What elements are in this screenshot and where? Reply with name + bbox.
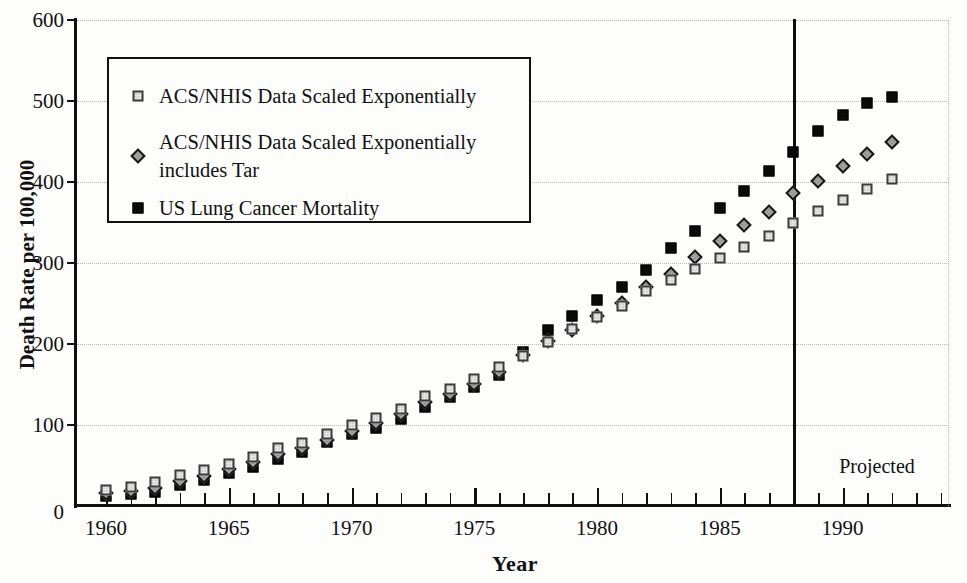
- data-point-acs-nhis-scaled-1973: [420, 390, 431, 401]
- lung-cancer-mortality-chart: 0100200300400500600196019651970197519801…: [0, 0, 967, 583]
- data-point-acs-nhis-scaled-1967: [272, 443, 283, 454]
- x-tick-label-1960: 1960: [71, 518, 141, 539]
- gridline-100: [77, 425, 949, 426]
- x-tick-1972: [401, 493, 403, 505]
- data-point-acs-nhis-scaled-1970: [346, 420, 357, 431]
- data-point-acs-nhis-scaled-1960: [101, 484, 112, 495]
- data-point-acs-nhis-scaled-1985: [714, 253, 725, 264]
- data-point-us-lung-cancer-mortality-1988: [788, 147, 799, 158]
- data-point-acs-nhis-scaled-tar-1985: [712, 233, 728, 249]
- x-tick-1973: [425, 493, 427, 505]
- data-point-acs-nhis-scaled-1968: [297, 437, 308, 448]
- data-point-acs-nhis-scaled-1965: [223, 458, 234, 469]
- data-point-acs-nhis-scaled-tar-1992: [884, 135, 900, 151]
- data-point-us-lung-cancer-mortality-1991: [862, 98, 873, 109]
- data-point-acs-nhis-scaled-1984: [690, 264, 701, 275]
- data-point-us-lung-cancer-mortality-1985: [714, 202, 725, 213]
- x-tick-1991: [867, 493, 869, 505]
- x-tick-1983: [671, 493, 673, 505]
- data-point-acs-nhis-scaled-1979: [567, 323, 578, 334]
- data-point-acs-nhis-scaled-tar-1986: [737, 217, 753, 233]
- data-point-acs-nhis-scaled-1961: [125, 482, 136, 493]
- y-tick: [67, 19, 75, 21]
- y-tick: [67, 262, 75, 264]
- data-point-acs-nhis-scaled-1978: [542, 337, 553, 348]
- x-tick-1989: [818, 493, 820, 505]
- data-point-us-lung-cancer-mortality-1982: [641, 265, 652, 276]
- data-point-acs-nhis-scaled-1975: [469, 373, 480, 384]
- data-point-acs-nhis-scaled-1980: [592, 312, 603, 323]
- data-point-acs-nhis-scaled-1989: [812, 206, 823, 217]
- legend-entry-us-mortality: US Lung Cancer Mortality: [109, 191, 529, 225]
- data-point-acs-nhis-scaled-1969: [321, 428, 332, 439]
- y-axis-title: Death Rate per 100,000: [15, 150, 40, 380]
- data-point-us-lung-cancer-mortality-1986: [739, 185, 750, 196]
- data-point-acs-nhis-scaled-1966: [248, 451, 259, 462]
- x-tick-1979: [572, 493, 574, 505]
- legend-label: ACS/NHIS Data Scaled Exponentially: [159, 82, 521, 110]
- x-tick-1974: [450, 493, 452, 505]
- gridline-600: [77, 20, 949, 21]
- legend-label: US Lung Cancer Mortality: [159, 194, 521, 222]
- projection-divider-line: [793, 19, 796, 507]
- x-tick-1976: [499, 493, 501, 505]
- x-tick-1992: [892, 493, 894, 505]
- data-point-acs-nhis-scaled-1992: [886, 173, 897, 184]
- data-point-acs-nhis-scaled-1972: [395, 403, 406, 414]
- x-tick-1971: [376, 493, 378, 505]
- x-tick-1994: [941, 493, 943, 505]
- x-tick-1978: [548, 493, 550, 505]
- x-tick-label-1985: 1985: [685, 518, 755, 539]
- y-tick-label-100: 100: [12, 415, 64, 436]
- data-point-acs-nhis-scaled-1986: [739, 241, 750, 252]
- data-point-acs-nhis-scaled-1963: [174, 470, 185, 481]
- x-tick-1970: [352, 488, 354, 505]
- legend-label: ACS/NHIS Data Scaled Exponentially inclu…: [159, 128, 521, 184]
- data-point-acs-nhis-scaled-1977: [518, 351, 529, 362]
- data-point-us-lung-cancer-mortality-1980: [592, 295, 603, 306]
- x-tick-1975: [474, 488, 476, 505]
- x-tick-label-1975: 1975: [439, 518, 509, 539]
- data-point-acs-nhis-scaled-tar-1991: [859, 146, 875, 162]
- data-point-us-lung-cancer-mortality-1989: [812, 125, 823, 136]
- data-point-acs-nhis-scaled-1991: [862, 184, 873, 195]
- x-tick-1966: [253, 493, 255, 505]
- legend-entry-acs-nhis-tar: ACS/NHIS Data Scaled Exponentially inclu…: [109, 125, 529, 187]
- legend-entry-acs-nhis: ACS/NHIS Data Scaled Exponentially: [109, 73, 529, 118]
- y-tick-label-500: 500: [12, 91, 64, 112]
- x-tick-1982: [646, 493, 648, 505]
- x-tick-1984: [695, 493, 697, 505]
- y-tick: [67, 100, 75, 102]
- gridline-200: [77, 344, 949, 345]
- x-tick-1993: [916, 493, 918, 505]
- data-point-acs-nhis-scaled-1964: [199, 465, 210, 476]
- y-tick: [67, 424, 75, 426]
- x-tick-1990: [843, 488, 845, 505]
- data-point-us-lung-cancer-mortality-1983: [665, 243, 676, 254]
- x-tick-label-1970: 1970: [317, 518, 387, 539]
- light-square-marker-icon: [133, 90, 144, 101]
- x-tick-1967: [278, 493, 280, 505]
- data-point-acs-nhis-scaled-1976: [493, 361, 504, 372]
- data-point-us-lung-cancer-mortality-1981: [616, 282, 627, 293]
- y-tick: [67, 343, 75, 345]
- data-point-acs-nhis-scaled-1988: [788, 217, 799, 228]
- y-tick-label-0: 0: [12, 502, 64, 523]
- data-point-acs-nhis-scaled-1971: [371, 412, 382, 423]
- x-tick-label-1965: 1965: [194, 518, 264, 539]
- data-point-us-lung-cancer-mortality-1992: [886, 91, 897, 102]
- data-point-acs-nhis-scaled-tar-1987: [761, 204, 777, 220]
- x-tick-1963: [180, 493, 182, 505]
- x-tick-1977: [523, 493, 525, 505]
- x-tick-1980: [597, 488, 599, 505]
- y-tick-label-600: 600: [12, 10, 64, 31]
- x-tick-label-1990: 1990: [808, 518, 878, 539]
- data-point-us-lung-cancer-mortality-1990: [837, 109, 848, 120]
- x-tick-1987: [769, 493, 771, 505]
- data-point-acs-nhis-scaled-1982: [641, 286, 652, 297]
- legend-box: ACS/NHIS Data Scaled Exponentially ACS/N…: [107, 57, 531, 223]
- gray-diamond-marker-icon: [130, 148, 146, 164]
- gridline-300: [77, 263, 949, 264]
- data-point-acs-nhis-scaled-1990: [837, 194, 848, 205]
- data-point-us-lung-cancer-mortality-1987: [763, 166, 774, 177]
